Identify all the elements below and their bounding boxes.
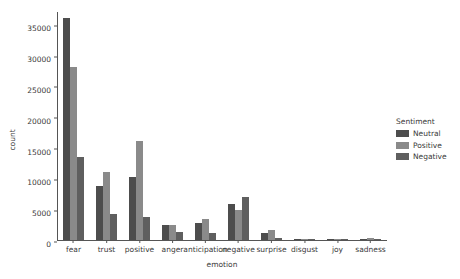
legend-item[interactable]: Neutral	[396, 129, 458, 138]
legend-item-label: Negative	[413, 152, 447, 161]
x-tick-mark	[304, 240, 305, 243]
legend-swatch	[396, 153, 409, 160]
x-tick-mark	[73, 240, 74, 243]
legend-item-label: Neutral	[413, 129, 441, 138]
bar	[261, 233, 268, 240]
bar	[176, 232, 183, 240]
legend-entries: NeutralPositiveNegative	[396, 129, 458, 161]
bar	[103, 172, 110, 240]
y-tick-label: 20000	[27, 116, 54, 125]
bar	[228, 204, 235, 240]
x-tick-label: trust	[98, 245, 116, 254]
x-tick-label: joy	[332, 245, 343, 254]
x-tick-mark	[337, 240, 338, 243]
y-tick: 30000	[27, 47, 54, 66]
bar	[162, 225, 169, 240]
bar	[77, 157, 84, 240]
bar	[110, 214, 117, 240]
bar	[268, 230, 275, 240]
x-tick: joy	[332, 240, 343, 254]
bar	[136, 141, 143, 240]
x-tick-mark	[238, 240, 239, 243]
x-tick: negative	[222, 240, 255, 254]
x-tick-label: anger	[162, 245, 184, 254]
bar	[70, 67, 77, 240]
x-tick: anger	[162, 240, 184, 254]
x-tick-mark	[205, 240, 206, 243]
bar	[169, 225, 176, 240]
bar	[143, 217, 150, 240]
y-tick: 20000	[27, 108, 54, 127]
bar	[195, 223, 202, 240]
x-tick: sadness	[355, 240, 385, 254]
x-tick: trust	[98, 240, 116, 254]
y-tick: 35000	[27, 16, 54, 35]
x-tick-label: disgust	[291, 245, 318, 254]
y-tick: 0	[46, 232, 54, 251]
y-tick-label: 25000	[27, 85, 54, 94]
y-tick: 10000	[27, 170, 54, 189]
bar	[63, 18, 70, 240]
legend-item[interactable]: Positive	[396, 141, 458, 150]
x-tick-mark	[139, 240, 140, 243]
x-tick-label: fear	[66, 245, 81, 254]
y-tick-label: 15000	[27, 147, 54, 156]
x-tick-mark	[370, 240, 371, 243]
y-tick: 5000	[32, 201, 54, 220]
x-tick-mark	[106, 240, 107, 243]
x-tick-label: positive	[125, 245, 154, 254]
y-tick: 15000	[27, 139, 54, 158]
bar	[96, 186, 103, 240]
legend-item[interactable]: Negative	[396, 152, 458, 161]
bar	[209, 233, 216, 240]
x-axis-title: emotion	[57, 260, 387, 269]
bar	[235, 210, 242, 240]
bar	[202, 219, 209, 240]
y-tick-label: 5000	[32, 209, 54, 218]
y-tick-label: 0	[46, 240, 54, 249]
y-tick: 25000	[27, 77, 54, 96]
x-tick: disgust	[291, 240, 318, 254]
x-tick-label: sadness	[355, 245, 385, 254]
y-axis-ticks: 05000100001500020000250003000035000	[0, 0, 54, 279]
x-tick-mark	[271, 240, 272, 243]
x-tick: fear	[66, 240, 81, 254]
x-tick: positive	[125, 240, 154, 254]
x-tick-label: negative	[222, 245, 255, 254]
y-tick-label: 35000	[27, 24, 54, 33]
legend-swatch	[396, 142, 409, 149]
legend-title: Sentiment	[396, 117, 458, 126]
bar	[242, 197, 249, 240]
plot-area	[57, 12, 387, 240]
y-tick-label: 10000	[27, 178, 54, 187]
x-tick: anticipation	[183, 240, 227, 254]
legend-item-label: Positive	[413, 141, 442, 150]
x-tick-mark	[172, 240, 173, 243]
legend: Sentiment NeutralPositiveNegative	[396, 117, 458, 164]
x-tick-label: surprise	[256, 245, 286, 254]
bar	[129, 177, 136, 240]
x-tick: surprise	[256, 240, 286, 254]
bar-chart: count 0500010000150002000025000300003500…	[0, 0, 460, 279]
y-tick-label: 30000	[27, 55, 54, 64]
legend-swatch	[396, 130, 409, 137]
x-tick-label: anticipation	[183, 245, 227, 254]
